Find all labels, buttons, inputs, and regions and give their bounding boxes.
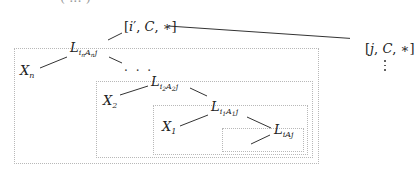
horizontal-ellipsis: . . . — [124, 60, 153, 74]
node-L-n: LinAnj — [70, 41, 97, 58]
node-X-2: X2 — [103, 94, 117, 110]
diagram-canvas: ( ... ) [i′, C, ∗] [j, C, ∗] LinAnj Xn .… — [0, 0, 418, 171]
vertical-ellipsis-icon — [384, 60, 386, 74]
node-L-1: Li1A1j — [211, 100, 238, 117]
node-root-left: [i′, C, ∗] — [124, 20, 177, 33]
node-root-right: [j, C, ∗] — [365, 42, 415, 55]
node-X-n: Xn — [20, 64, 34, 80]
node-X-1: X1 — [162, 120, 176, 136]
clipped-top-text: ( ... ) — [60, 0, 91, 4]
node-L-2: Li2A2j — [151, 75, 178, 92]
node-L-0: LiAj — [274, 123, 293, 139]
tree-edges — [0, 0, 418, 171]
